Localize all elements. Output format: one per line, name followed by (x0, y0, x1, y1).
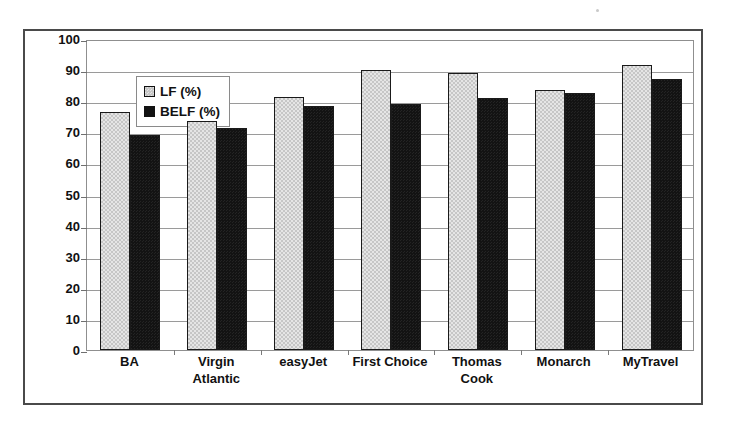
x-axis-tick-label: MyTravel (607, 353, 694, 370)
y-axis-tick-label: 10 (28, 313, 80, 326)
y-axis-tick-mark (81, 134, 87, 135)
x-axis-tick-label: First Choice (347, 353, 434, 370)
bar-lf-0 (100, 112, 130, 350)
y-axis-tick-label: 100 (28, 33, 80, 46)
y-axis-tick-label: 80 (28, 95, 80, 108)
y-axis-tick-label: 70 (28, 126, 80, 139)
y-axis-tick-label: 0 (28, 344, 80, 357)
x-axis-tick-label-line: MyTravel (607, 353, 694, 370)
y-axis-tick-mark (81, 228, 87, 229)
y-axis-tick-label: 90 (28, 64, 80, 77)
y-axis-tick-label: 30 (28, 251, 80, 264)
y-axis-tick-mark (81, 165, 87, 166)
bar-belf-0 (130, 135, 160, 350)
x-axis-tick-label-line: Thomas (433, 353, 520, 370)
y-axis-tick-label: 50 (28, 189, 80, 202)
y-axis-tick-mark (81, 103, 87, 104)
x-axis-tick-label: BA (86, 353, 173, 370)
bar-belf-6 (652, 79, 682, 350)
y-axis-tick-mark (81, 321, 87, 322)
bar-belf-2 (304, 106, 334, 350)
x-axis-tick-label-line: Cook (433, 370, 520, 387)
x-axis-tick-label-line: Atlantic (173, 370, 260, 387)
x-axis-tick-label: ThomasCook (433, 353, 520, 387)
legend-label-belf: BELF (%) (160, 104, 220, 119)
bar-belf-1 (217, 128, 247, 350)
bar-belf-4 (478, 98, 508, 350)
x-axis: BAVirginAtlanticeasyJetFirst ChoiceThoma… (86, 353, 694, 401)
y-axis-tick-mark (81, 197, 87, 198)
legend-item-belf: BELF (%) (144, 101, 220, 121)
bar-belf-3 (391, 104, 421, 350)
legend-swatch-belf-icon (144, 106, 155, 117)
x-axis-tick-label-line: Monarch (520, 353, 607, 370)
x-axis-tick-label: VirginAtlantic (173, 353, 260, 387)
bar-lf-1 (187, 121, 217, 350)
legend-swatch-lf-icon (144, 86, 155, 97)
chart-legend: LF (%) BELF (%) (136, 76, 230, 127)
bar-lf-5 (535, 90, 565, 350)
x-axis-tick-label-line: BA (86, 353, 173, 370)
y-axis-tick-label: 60 (28, 157, 80, 170)
bar-lf-6 (622, 65, 652, 350)
x-axis-tick-label: Monarch (520, 353, 607, 370)
x-axis-tick-label-line: easyJet (260, 353, 347, 370)
x-axis-tick-label-line: First Choice (347, 353, 434, 370)
y-axis-tick-mark (81, 259, 87, 260)
legend-label-lf: LF (%) (160, 84, 201, 99)
x-axis-tick-label-line: Virgin (173, 353, 260, 370)
bar-lf-2 (274, 97, 304, 350)
legend-item-lf: LF (%) (144, 81, 220, 101)
bar-lf-3 (361, 70, 391, 350)
chart-frame: 0102030405060708090100 BAVirginAtlantice… (23, 29, 703, 405)
bar-lf-4 (448, 73, 478, 350)
y-axis-tick-label: 40 (28, 220, 80, 233)
x-axis-tick-label: easyJet (260, 353, 347, 370)
y-axis: 0102030405060708090100 (25, 40, 80, 351)
y-axis-tick-label: 20 (28, 282, 80, 295)
y-axis-tick-mark (81, 72, 87, 73)
y-axis-tick-mark (81, 290, 87, 291)
bar-belf-5 (565, 93, 595, 350)
y-axis-tick-mark (81, 41, 87, 42)
scan-artifact-speck (596, 9, 599, 12)
